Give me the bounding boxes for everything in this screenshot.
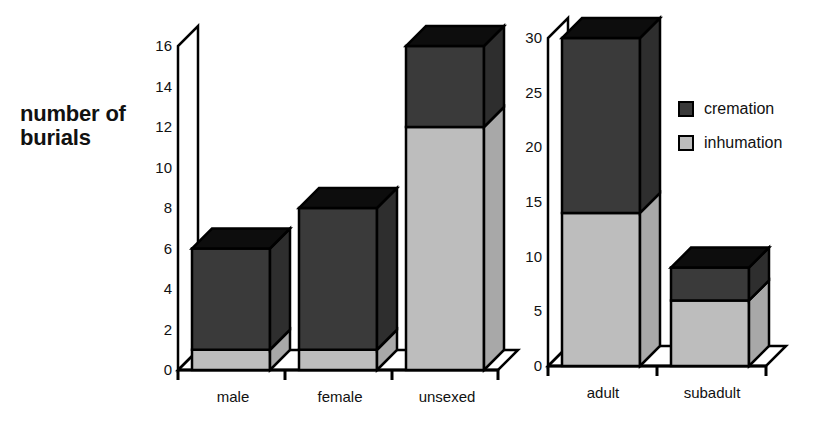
bar-subadult-cremation-front xyxy=(671,268,749,301)
bar-male-inhumation-front xyxy=(192,350,270,370)
y-tick-label-0-6: 6 xyxy=(142,241,172,257)
x-tick-label-adult: adult xyxy=(553,384,653,401)
y-tick-label-0-14: 14 xyxy=(142,79,172,95)
bar-subadult-inhumation-front xyxy=(671,300,749,366)
legend-label-inhumation: inhumation xyxy=(704,134,782,152)
bar-adult-inhumation-front xyxy=(562,213,640,366)
bar-female-cremation-side xyxy=(377,188,397,350)
legend: cremation inhumation xyxy=(678,92,782,160)
legend-label-cremation: cremation xyxy=(704,100,774,118)
y-tick-label-1-0: 0 xyxy=(512,358,542,374)
y-tick-label-0-12: 12 xyxy=(142,119,172,135)
x-tick-label-male: male xyxy=(183,388,283,405)
y-tick-label-0-16: 16 xyxy=(142,38,172,54)
bar-adult-cremation-side xyxy=(640,18,660,213)
bar-male-cremation-front xyxy=(192,249,270,350)
y-tick-label-0-2: 2 xyxy=(142,322,172,338)
legend-swatch-cremation xyxy=(678,101,694,117)
y-tick-label-1-10: 10 xyxy=(512,249,542,265)
y-tick-label-1-30: 30 xyxy=(512,30,542,46)
legend-item-cremation: cremation xyxy=(678,92,782,126)
y-tick-label-0-4: 4 xyxy=(142,281,172,297)
bar-adult-inhumation-side xyxy=(640,193,660,366)
y-tick-label-1-15: 15 xyxy=(512,194,542,210)
x-tick-label-subadult: subadult xyxy=(662,384,762,401)
y-tick-label-0-10: 10 xyxy=(142,160,172,176)
y-tick-label-0-8: 8 xyxy=(142,200,172,216)
bar-unsexed-inhumation-front xyxy=(406,127,484,370)
bar-female-cremation-front xyxy=(299,208,377,350)
chart-canvas xyxy=(0,0,817,423)
bar-adult-cremation-front xyxy=(562,38,640,213)
bar-unsexed-cremation-front xyxy=(406,46,484,127)
x-tick-label-unsexed: unsexed xyxy=(397,388,497,405)
y-tick-label-0-0: 0 xyxy=(142,362,172,378)
y-tick-label-1-20: 20 xyxy=(512,139,542,155)
y-tick-label-1-25: 25 xyxy=(512,85,542,101)
y-tick-label-1-5: 5 xyxy=(512,303,542,319)
legend-item-inhumation: inhumation xyxy=(678,126,782,160)
legend-swatch-inhumation xyxy=(678,135,694,151)
bar-female-inhumation-front xyxy=(299,350,377,370)
bar-unsexed-inhumation-side xyxy=(484,107,504,370)
x-tick-label-female: female xyxy=(290,388,390,405)
